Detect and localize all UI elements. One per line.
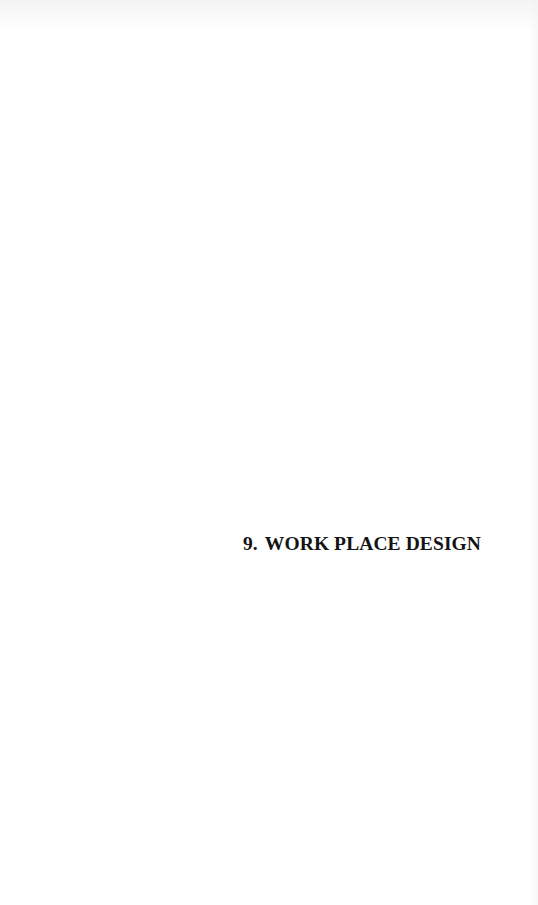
document-page: 9.WORK PLACE DESIGN xyxy=(0,0,538,905)
section-heading: 9.WORK PLACE DESIGN xyxy=(243,533,481,555)
section-number: 9. xyxy=(243,533,258,554)
section-title: WORK PLACE DESIGN xyxy=(265,533,481,554)
scan-bleed-through xyxy=(0,0,538,30)
scan-edge-shadow xyxy=(528,0,538,905)
